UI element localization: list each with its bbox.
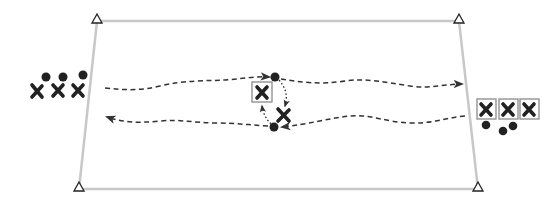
ball-icon (499, 127, 508, 136)
field-boundary (79, 21, 478, 189)
player-x-icon (53, 85, 63, 96)
player-x-icon (73, 85, 83, 96)
ball-icon (509, 122, 518, 131)
ball-icon (79, 71, 88, 80)
left-group (32, 71, 88, 98)
cone-icon (454, 14, 464, 23)
ball-icon (482, 121, 491, 130)
right-group (477, 99, 539, 135)
field (79, 21, 478, 189)
player-x-icon (32, 85, 42, 97)
drill-diagram (0, 0, 558, 206)
ball-icon (42, 73, 51, 82)
ball-icon (270, 123, 279, 132)
ball-icon (271, 73, 280, 82)
ball-icon (59, 73, 68, 82)
cone-icon (92, 14, 102, 23)
